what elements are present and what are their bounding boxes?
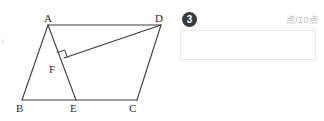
answer-panel: 3 点/10点 bbox=[175, 0, 324, 121]
vertex-label-d: D bbox=[155, 13, 163, 24]
segment-DC bbox=[137, 25, 161, 100]
score-label: 点/10点 bbox=[286, 13, 318, 26]
vertex-label-a: A bbox=[44, 13, 52, 24]
segment-DF bbox=[64, 25, 161, 58]
geometry-figure-panel: ▫ A D F B E C bbox=[0, 0, 175, 121]
vertex-label-f: F bbox=[49, 64, 55, 75]
parallelogram-diagram bbox=[0, 0, 175, 121]
vertex-label-e: E bbox=[70, 103, 77, 114]
answer-input[interactable] bbox=[181, 31, 315, 59]
segment-AB bbox=[22, 25, 48, 100]
vertex-label-c: C bbox=[129, 103, 136, 114]
question-number-badge: 3 bbox=[182, 12, 197, 27]
answer-input-box[interactable] bbox=[180, 30, 316, 60]
vertex-label-b: B bbox=[16, 103, 23, 114]
